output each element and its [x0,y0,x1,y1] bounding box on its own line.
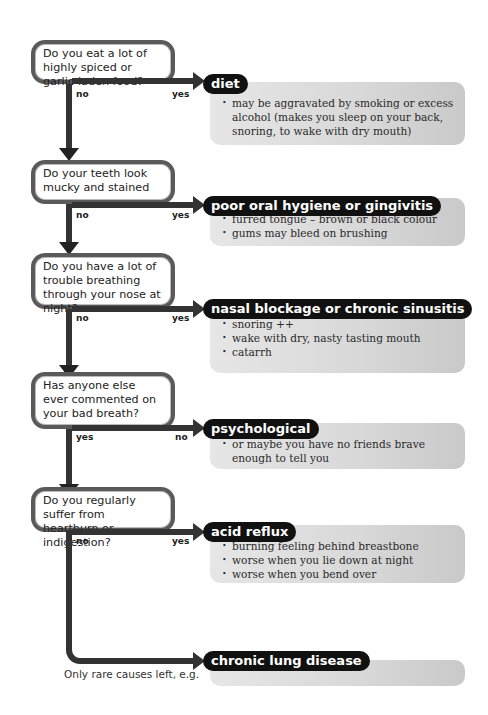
diagnosis-label-diet: diet [203,74,248,94]
final-curved-line [66,530,90,664]
no-label-3: no [76,313,89,323]
bullet: gums may bleed on brushing [222,226,455,240]
bullet: may be aggravated by smoking or excess a… [222,96,455,138]
question-box-2: Do your teeth look mucky and stained [31,160,175,204]
diagnosis-label-oral-hygiene: poor oral hygiene or gingivitis [203,196,441,216]
diagnosis-label-nasal: nasal blockage or chronic sinusitis [203,299,472,319]
yes-arrow-2 [72,202,194,208]
question-box-5: Do you regularly suffer from heartburn o… [31,487,175,532]
diagnosis-label-psychological: psychological [203,419,319,439]
final-arrow [88,658,194,664]
yes-arrow-1 [72,78,194,84]
down-line-3 [66,309,72,367]
down-line-2 [66,204,72,244]
down-line-1 [66,84,72,150]
diagnosis-label-lung: chronic lung disease [203,651,370,671]
bullet: worse when you lie down at night [222,553,455,567]
yes-arrow-5 [72,529,194,535]
yes-label-4: yes [76,432,93,442]
yes-arrow-3 [72,306,194,312]
yes-label-3: yes [172,313,189,323]
bullet: snoring ++ [222,317,455,331]
yes-label-5: yes [172,536,189,546]
down-line-4 [66,429,72,487]
bullet: or maybe you have no friends brave enoug… [222,437,455,465]
no-label-2: no [76,210,89,220]
diagnosis-box-diet: may be aggravated by smoking or excess a… [210,82,465,145]
bullet: catarrh [222,345,455,359]
no-arrow-4 [72,425,194,431]
yes-label-2: yes [172,210,189,220]
question-box-4: Has anyone else ever commented on your b… [31,372,175,429]
no-label-4: no [175,432,188,442]
diagnosis-label-acid-reflux: acid reflux [203,522,296,542]
bullet: wake with dry, nasty tasting mouth [222,331,455,345]
no-label-1: no [76,89,89,99]
question-box-3: Do you have a lot of trouble breathing t… [31,253,175,309]
yes-label-1: yes [172,89,189,99]
bullet: worse when you bend over [222,567,455,581]
footnote: Only rare causes left, e.g. [64,668,199,680]
